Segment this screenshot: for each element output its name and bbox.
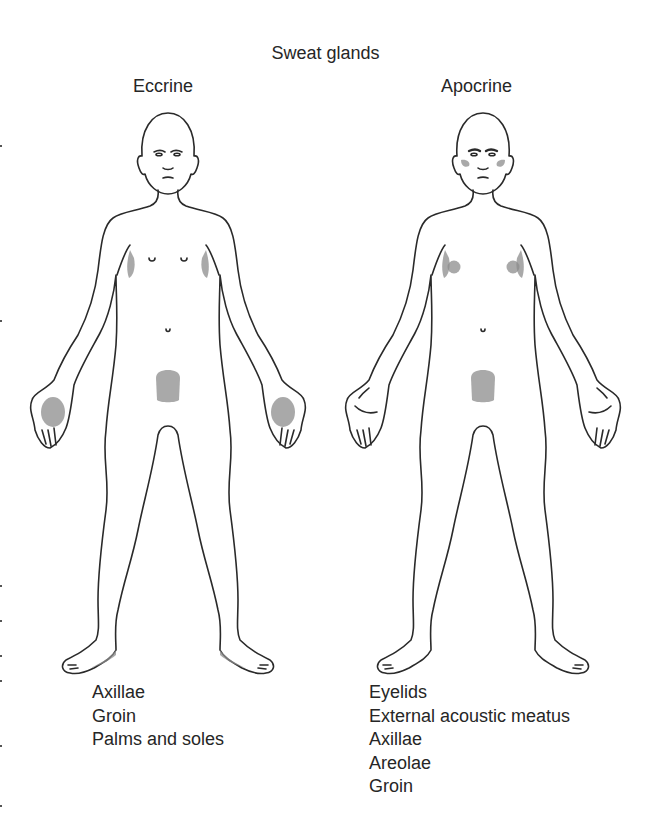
groin-shading — [471, 370, 495, 402]
sole-right-shading — [220, 650, 246, 668]
sole-left-shading — [90, 650, 116, 668]
apocrine-label-areolae: Areolae — [369, 752, 570, 776]
eccrine-location-list: Axillae Groin Palms and soles — [92, 681, 224, 752]
eccrine-body-figure — [18, 100, 318, 680]
apocrine-label-groin: Groin — [369, 775, 570, 799]
apocrine-location-list: Eyelids External acoustic meatus Axillae… — [369, 681, 570, 799]
apocrine-body-figure — [333, 100, 633, 680]
apocrine-label-ear-canal: External acoustic meatus — [369, 705, 570, 729]
palm-right-shading — [271, 397, 295, 427]
diagram-title: Sweat glands — [0, 43, 651, 64]
areola-left-shading — [448, 261, 461, 274]
eccrine-label-axillae: Axillae — [92, 681, 224, 705]
ear-left-shading — [461, 160, 469, 167]
eccrine-heading: Eccrine — [133, 76, 193, 97]
apocrine-label-eyelids: Eyelids — [369, 681, 570, 705]
ear-right-shading — [497, 160, 505, 167]
eccrine-label-groin: Groin — [92, 705, 224, 729]
eccrine-label-palms-soles: Palms and soles — [92, 728, 224, 752]
groin-shading — [156, 370, 180, 402]
palm-left-shading — [41, 397, 65, 427]
body-outline — [346, 190, 621, 674]
scan-edge-artifacts — [0, 0, 3, 813]
axilla-left-shading — [127, 250, 134, 278]
head-outline — [138, 113, 199, 194]
axilla-right-shading — [201, 250, 208, 278]
apocrine-heading: Apocrine — [441, 76, 512, 97]
head-outline — [453, 113, 514, 194]
body-outline — [31, 190, 306, 674]
areola-right-shading — [507, 261, 520, 274]
apocrine-label-axillae: Axillae — [369, 728, 570, 752]
